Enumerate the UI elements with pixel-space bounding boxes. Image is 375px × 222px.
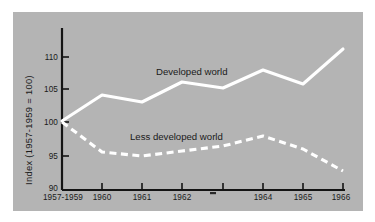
y-tick-label-105: 105 <box>44 85 58 94</box>
scan-artifact-smudge <box>210 192 216 194</box>
x-axis-tick-labels: 1957-1959 1960 1961 1962 1964 1965 1966 <box>43 193 351 202</box>
series-label-less-developed-world: Less developed world <box>130 131 223 142</box>
y-tick-label-110: 110 <box>45 53 59 62</box>
x-tick-label-1965: 1965 <box>294 193 313 202</box>
series-label-developed-world: Developed world <box>156 66 227 77</box>
series-line-less-developed-world <box>62 122 343 171</box>
series-line-developed-world <box>62 49 343 121</box>
y-axis-title: Index (1957-1959 = 100) <box>23 75 34 185</box>
y-tick-label-90: 90 <box>49 184 59 193</box>
y-tick-label-100: 100 <box>44 118 58 127</box>
x-tick-label-1961: 1961 <box>133 193 152 202</box>
chart-figure: Index (1957-1959 = 100) 110 105 100 95 9… <box>0 0 375 222</box>
x-tick-label-1960: 1960 <box>93 193 112 202</box>
x-tick-label-1964: 1964 <box>254 193 273 202</box>
y-tick-label-95: 95 <box>49 152 59 161</box>
x-tick-label-1957-1959: 1957-1959 <box>43 193 83 202</box>
chart-plot-area: Index (1957-1959 = 100) 110 105 100 95 9… <box>0 0 375 222</box>
x-tick-label-1966: 1966 <box>332 193 351 202</box>
y-axis-tick-labels: 110 105 100 95 90 <box>44 53 58 193</box>
x-tick-label-1962: 1962 <box>173 193 192 202</box>
